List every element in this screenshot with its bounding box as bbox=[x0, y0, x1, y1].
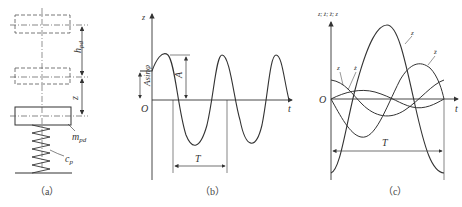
mass-label: mpd bbox=[72, 131, 87, 144]
caption-b: （b） bbox=[200, 186, 225, 197]
origin-label: O bbox=[141, 103, 148, 114]
y-axis-label: z; ż; z̈; z⃛ bbox=[317, 11, 343, 17]
curve-label-3: z̈ bbox=[433, 48, 437, 56]
z-label: z bbox=[69, 96, 80, 101]
ghost-box-top bbox=[15, 15, 70, 33]
spring-icon bbox=[32, 125, 50, 173]
period-label: T bbox=[195, 153, 202, 164]
spring-label: cp bbox=[65, 153, 73, 166]
caption-c: （c） bbox=[383, 186, 407, 197]
period-label: T bbox=[382, 137, 389, 148]
curve-label-4: z⃛ bbox=[410, 29, 419, 37]
t-axis-label: t bbox=[455, 103, 458, 114]
curve-label-2: ż bbox=[353, 64, 357, 72]
curve-label-1: z bbox=[336, 64, 340, 72]
initial-offset-label: Asinφ bbox=[142, 65, 152, 87]
caption-a: （a） bbox=[35, 186, 59, 197]
panel-a-spring-mass: hpd z mpd cp （a） bbox=[10, 8, 88, 197]
z-axis-label: z bbox=[141, 13, 146, 22]
panel-b-sine-plot: z t O A Asinφ T （b） bbox=[140, 13, 292, 197]
panel-c-derivatives-plot: z; ż; z̈; z⃛ t O T z ż z̈ z⃛ （c） bbox=[317, 11, 458, 197]
sine-curve bbox=[140, 54, 289, 146]
origin-label: O bbox=[319, 94, 326, 105]
amplitude-label: A bbox=[173, 71, 184, 79]
curve-velocity bbox=[331, 80, 444, 116]
curve-acceleration bbox=[331, 64, 444, 137]
figure-canvas: hpd z mpd cp （a） z t O A Asinφ T （b） bbox=[0, 0, 462, 207]
t-axis-label: t bbox=[288, 103, 291, 114]
ghost-box-middle bbox=[15, 68, 70, 84]
h-label: hpd bbox=[72, 41, 85, 54]
